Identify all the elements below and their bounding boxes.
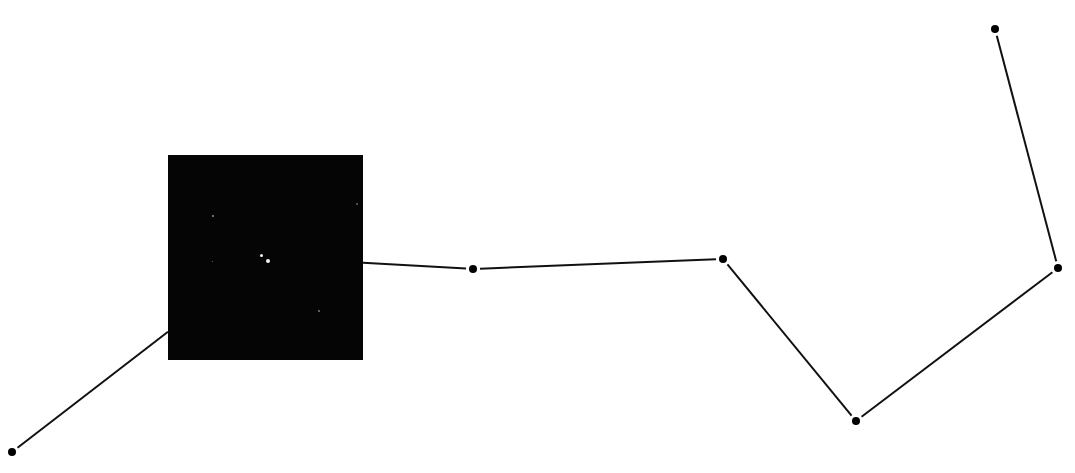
connection-line-s6-s7 — [997, 36, 1056, 261]
faint-star — [356, 203, 358, 205]
companion-star — [260, 254, 263, 257]
double-star-photo-inset — [168, 155, 363, 360]
faint-star — [212, 215, 214, 217]
primary-star — [266, 259, 270, 263]
connection-line-s1-s2 — [18, 332, 168, 448]
connection-line-s5-s6 — [862, 272, 1053, 417]
faint-star — [318, 310, 320, 312]
connection-line-s4-s5 — [727, 264, 851, 415]
star-dot-s4 — [719, 255, 727, 263]
star-dot-s5 — [852, 417, 860, 425]
star-dot-s1 — [8, 448, 16, 456]
star-dot-s6 — [1054, 264, 1062, 272]
connection-line-s3-s4 — [480, 259, 716, 268]
star-dot-s3 — [469, 265, 477, 273]
faint-star — [212, 261, 213, 262]
star-dot-s7 — [991, 25, 999, 33]
constellation-diagram — [0, 0, 1075, 473]
connection-line-s2-s3 — [363, 263, 466, 269]
